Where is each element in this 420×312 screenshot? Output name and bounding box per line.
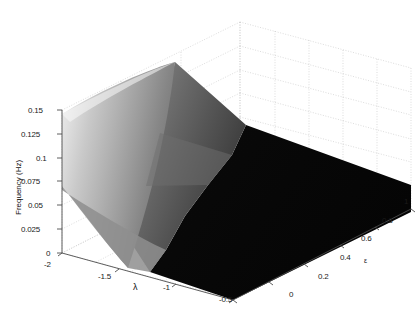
epsilon-tick-1: 0.2	[318, 272, 329, 281]
epsilon-tick-4: 0.8	[382, 216, 393, 225]
epsilon-tick-3: 0.6	[361, 234, 372, 243]
frequency-tick-5: 0.025	[21, 225, 40, 234]
plot-canvas	[0, 0, 420, 312]
frequency-tick-6: 0	[46, 249, 50, 258]
lambda-tick-1: -1.5	[98, 272, 111, 281]
lambda-tick-2: -1	[163, 283, 170, 292]
frequency-tick-marks	[57, 110, 62, 253]
epsilon-tick-5: 1	[404, 197, 408, 206]
surface-mesh	[62, 62, 411, 300]
epsilon-tick-0: 0	[289, 290, 293, 299]
epsilon-axis-label: ε	[364, 257, 367, 264]
lambda-axis-label: λ	[133, 282, 138, 292]
frequency-tick-4: 0.05	[28, 201, 43, 210]
frequency-tick-3: 0.075	[21, 177, 40, 186]
frequency-axis-label: Frequency (Hz)	[14, 160, 23, 215]
lambda-tick-3: -0.5	[219, 295, 232, 304]
epsilon-tick-2: 0.4	[340, 253, 351, 262]
frequency-tick-1: 0.125	[21, 130, 40, 139]
frequency-tick-2: 0.1	[36, 154, 47, 163]
lambda-tick-0: -2	[44, 260, 51, 269]
surface-plot-figure: 0.15 0.125 0.1 0.075 0.05 0.025 0 -2 -1.…	[0, 0, 420, 312]
frequency-tick-0: 0.15	[28, 106, 43, 115]
